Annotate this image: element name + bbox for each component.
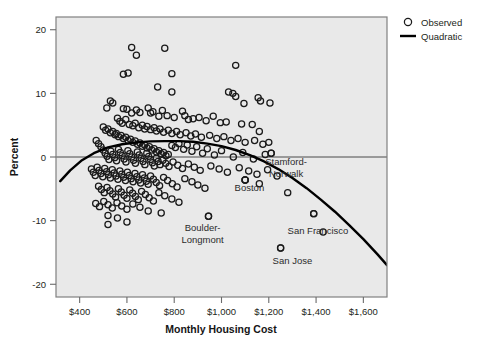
y-tick-label: 0 <box>41 152 46 163</box>
legend-marker-observed <box>404 18 411 25</box>
x-tick-label: $1,200 <box>254 306 283 317</box>
annotation-label: Stamford-Norwalk <box>265 156 307 179</box>
x-tick-label: $1,600 <box>349 306 378 317</box>
y-axis: 20100-10-20 <box>32 24 56 290</box>
x-tick-label: $1,000 <box>207 306 236 317</box>
annotation-label: Boston <box>235 182 265 193</box>
legend: ObservedQuadratic <box>400 17 462 42</box>
x-axis: $400$600$800$1,000$1,200$1,400$1,600 <box>69 297 378 317</box>
y-axis-title: Percent <box>8 137 20 176</box>
y-tick-label: 20 <box>35 24 46 35</box>
y-tick-label: 10 <box>35 88 46 99</box>
x-tick-label: $400 <box>69 306 90 317</box>
scatter-plot-figure: $400$600$800$1,000$1,200$1,400$1,600 201… <box>0 0 481 346</box>
annotation-label: San Francisco <box>288 225 349 236</box>
y-tick-label: -20 <box>32 279 46 290</box>
y-tick-label: -10 <box>32 215 46 226</box>
legend-entry-label: Observed <box>421 17 462 28</box>
legend-entry-label: Quadratic <box>421 31 462 42</box>
x-axis-title: Monthly Housing Cost <box>165 323 277 335</box>
chart-canvas: $400$600$800$1,000$1,200$1,400$1,600 201… <box>0 0 481 346</box>
annotation-label: San Jose <box>273 255 313 266</box>
x-tick-label: $800 <box>164 306 185 317</box>
x-tick-label: $1,400 <box>302 306 331 317</box>
x-tick-label: $600 <box>116 306 137 317</box>
annotation-label: Boulder-Longmont <box>181 222 224 245</box>
